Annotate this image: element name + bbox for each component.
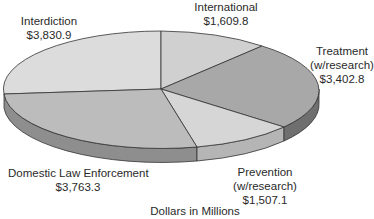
label-name: Domestic Law Enforcement	[8, 166, 148, 180]
label-value: $3,402.8	[310, 72, 374, 86]
label-value: $3,830.9	[14, 28, 84, 42]
label-prevention: Prevention (w/research) $1,507.1	[225, 165, 305, 207]
label-sub: (w/research)	[225, 179, 305, 193]
label-international: International $1,609.8	[188, 0, 264, 28]
label-name: Prevention	[225, 165, 305, 179]
label-name: Interdiction	[14, 14, 84, 28]
label-value: $3,763.3	[8, 180, 148, 194]
label-treatment: Treatment (w/research) $3,402.8	[310, 44, 374, 86]
label-name: Treatment	[310, 44, 374, 58]
label-interdiction: Interdiction $3,830.9	[14, 14, 84, 42]
axis-label: Dollars in Millions	[140, 204, 250, 218]
label-sub: (w/research)	[310, 58, 374, 72]
label-name: International	[188, 0, 264, 14]
label-value: $1,609.8	[188, 14, 264, 28]
label-domestic-law-enforcement: Domestic Law Enforcement $3,763.3	[8, 166, 148, 194]
